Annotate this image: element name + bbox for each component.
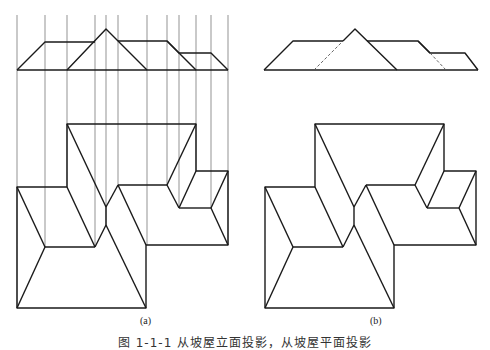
figure-label-a: (a): [140, 315, 151, 326]
plan-b: [265, 124, 476, 308]
elevation-a: [17, 29, 228, 70]
elevation-b: [264, 29, 478, 70]
plan-a: [17, 124, 228, 308]
figure-label-b: (b): [370, 315, 382, 326]
figure-caption: 图 1-1-1 从坡屋立面投影，从坡屋平面投影: [0, 333, 490, 350]
hidden-lines-b: [314, 41, 446, 70]
